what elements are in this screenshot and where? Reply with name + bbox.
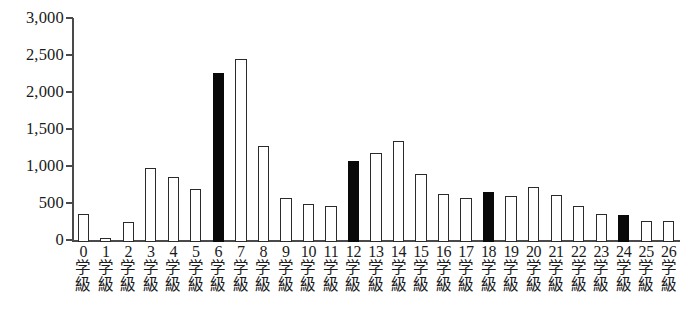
x-axis-tick-number: 26 bbox=[657, 244, 680, 260]
x-axis-tick-unit: 学級 bbox=[342, 260, 365, 293]
bar-slot bbox=[95, 18, 118, 242]
x-axis-tick-label: 14学級 bbox=[387, 244, 410, 294]
x-axis-tick-unit: 学級 bbox=[230, 260, 253, 293]
x-axis-tick-number: 8 bbox=[252, 244, 275, 260]
bar-slot bbox=[500, 18, 523, 242]
x-axis-tick-unit: 学級 bbox=[162, 260, 185, 293]
x-axis-unit-char: 学 bbox=[365, 260, 388, 277]
x-axis-tick-label: 0学級 bbox=[72, 244, 95, 294]
x-axis-unit-char: 級 bbox=[342, 277, 365, 294]
x-axis-tick-label: 25学級 bbox=[635, 244, 658, 294]
x-axis-tick-unit: 学級 bbox=[500, 260, 523, 293]
x-axis-tick-number: 17 bbox=[455, 244, 478, 260]
x-axis-tick-unit: 学級 bbox=[95, 260, 118, 293]
x-axis-tick-label: 16学級 bbox=[432, 244, 455, 294]
bar-slot bbox=[297, 18, 320, 242]
bar bbox=[573, 206, 584, 242]
x-axis-tick-unit: 学級 bbox=[522, 260, 545, 293]
bar bbox=[528, 187, 539, 242]
x-axis-tick-unit: 学級 bbox=[365, 260, 388, 293]
bar-slot bbox=[455, 18, 478, 242]
bar-slot bbox=[162, 18, 185, 242]
bar bbox=[78, 214, 89, 242]
x-axis-tick-number: 16 bbox=[432, 244, 455, 260]
bar-slot bbox=[342, 18, 365, 242]
x-axis-tick-unit: 学級 bbox=[455, 260, 478, 293]
bar-slot bbox=[567, 18, 590, 242]
x-axis-unit-char: 級 bbox=[207, 277, 230, 294]
bar-slot bbox=[275, 18, 298, 242]
x-axis-tick-number: 11 bbox=[320, 244, 343, 260]
x-axis-tick-label: 6学級 bbox=[207, 244, 230, 294]
x-axis-tick-unit: 学級 bbox=[477, 260, 500, 293]
bar bbox=[618, 215, 629, 242]
bar bbox=[415, 174, 426, 242]
x-axis-tick-label: 23学級 bbox=[590, 244, 613, 294]
x-axis-tick-number: 14 bbox=[387, 244, 410, 260]
x-axis-unit-char: 級 bbox=[230, 277, 253, 294]
x-axis-tick-number: 23 bbox=[590, 244, 613, 260]
bar bbox=[258, 146, 269, 242]
x-axis-unit-char: 学 bbox=[432, 260, 455, 277]
x-axis-tick-unit: 学級 bbox=[387, 260, 410, 293]
x-axis-tick-unit: 学級 bbox=[275, 260, 298, 293]
x-axis-tick-label: 26学級 bbox=[657, 244, 680, 294]
bar bbox=[190, 189, 201, 242]
x-axis-unit-char: 学 bbox=[387, 260, 410, 277]
x-axis-tick-unit: 学級 bbox=[207, 260, 230, 293]
y-axis-tick-label: 3,000 bbox=[2, 10, 64, 27]
x-axis-unit-char: 級 bbox=[432, 277, 455, 294]
x-axis-tick-unit: 学級 bbox=[545, 260, 568, 293]
x-axis-tick-label: 5学級 bbox=[185, 244, 208, 294]
x-axis-tick-unit: 学級 bbox=[320, 260, 343, 293]
bar-slot bbox=[365, 18, 388, 242]
x-axis-unit-char: 級 bbox=[95, 277, 118, 294]
x-axis-unit-char: 級 bbox=[567, 277, 590, 294]
y-axis-tick-label: 2,500 bbox=[2, 47, 64, 64]
x-axis-tick-number: 18 bbox=[477, 244, 500, 260]
bar-slot bbox=[140, 18, 163, 242]
x-axis-tick-label: 18学級 bbox=[477, 244, 500, 294]
bar bbox=[145, 168, 156, 242]
bar-slot bbox=[320, 18, 343, 242]
x-axis-unit-char: 学 bbox=[410, 260, 433, 277]
bar-slot bbox=[230, 18, 253, 242]
x-axis-tick-label: 2学級 bbox=[117, 244, 140, 294]
x-axis-unit-char: 級 bbox=[275, 277, 298, 294]
bar-slot bbox=[72, 18, 95, 242]
bar-slot bbox=[612, 18, 635, 242]
x-axis-tick-label: 24学級 bbox=[612, 244, 635, 294]
bar-slot bbox=[545, 18, 568, 242]
x-axis-unit-char: 学 bbox=[252, 260, 275, 277]
x-axis-tick-label: 4学級 bbox=[162, 244, 185, 294]
x-axis-unit-char: 学 bbox=[72, 260, 95, 277]
x-axis-unit-char: 級 bbox=[185, 277, 208, 294]
bar-slot bbox=[477, 18, 500, 242]
x-axis-tick-label: 3学級 bbox=[140, 244, 163, 294]
x-axis-tick-unit: 学級 bbox=[590, 260, 613, 293]
bar-slot bbox=[252, 18, 275, 242]
x-axis-unit-char: 級 bbox=[545, 277, 568, 294]
x-axis-unit-char: 学 bbox=[275, 260, 298, 277]
x-axis-tick-unit: 学級 bbox=[297, 260, 320, 293]
x-axis-unit-char: 学 bbox=[162, 260, 185, 277]
x-axis-unit-char: 学 bbox=[477, 260, 500, 277]
bar bbox=[280, 198, 291, 242]
x-axis-unit-char: 学 bbox=[545, 260, 568, 277]
x-axis-tick-unit: 学級 bbox=[252, 260, 275, 293]
x-axis-tick-unit: 学級 bbox=[657, 260, 680, 293]
x-axis-unit-char: 級 bbox=[590, 277, 613, 294]
x-axis-tick-number: 20 bbox=[522, 244, 545, 260]
bar bbox=[235, 59, 246, 242]
x-axis-unit-char: 学 bbox=[522, 260, 545, 277]
x-axis-tick-label: 7学級 bbox=[230, 244, 253, 294]
y-axis-tick-label: 1,500 bbox=[2, 121, 64, 138]
x-axis-unit-char: 学 bbox=[95, 260, 118, 277]
x-axis-tick-label: 10学級 bbox=[297, 244, 320, 294]
x-axis-tick-number: 19 bbox=[500, 244, 523, 260]
x-axis-tick-label: 15学級 bbox=[410, 244, 433, 294]
x-axis-tick-unit: 学級 bbox=[185, 260, 208, 293]
x-axis-tick-number: 25 bbox=[635, 244, 658, 260]
y-axis-tick-label: 0 bbox=[2, 232, 64, 249]
bar bbox=[325, 206, 336, 242]
